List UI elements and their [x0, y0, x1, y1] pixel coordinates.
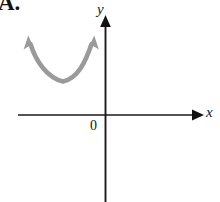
curve-left-arrowhead-icon	[24, 36, 35, 50]
panel-label: A.	[0, 0, 20, 14]
parabola-curve	[31, 44, 92, 82]
x-axis-label: x	[206, 105, 213, 120]
x-axis-arrowhead-icon	[192, 110, 204, 121]
origin-label: 0	[90, 119, 97, 133]
figure-panel: A. y x 0	[0, 0, 220, 202]
y-axis-label: y	[97, 2, 104, 17]
coordinate-plane-graphic	[0, 0, 220, 202]
